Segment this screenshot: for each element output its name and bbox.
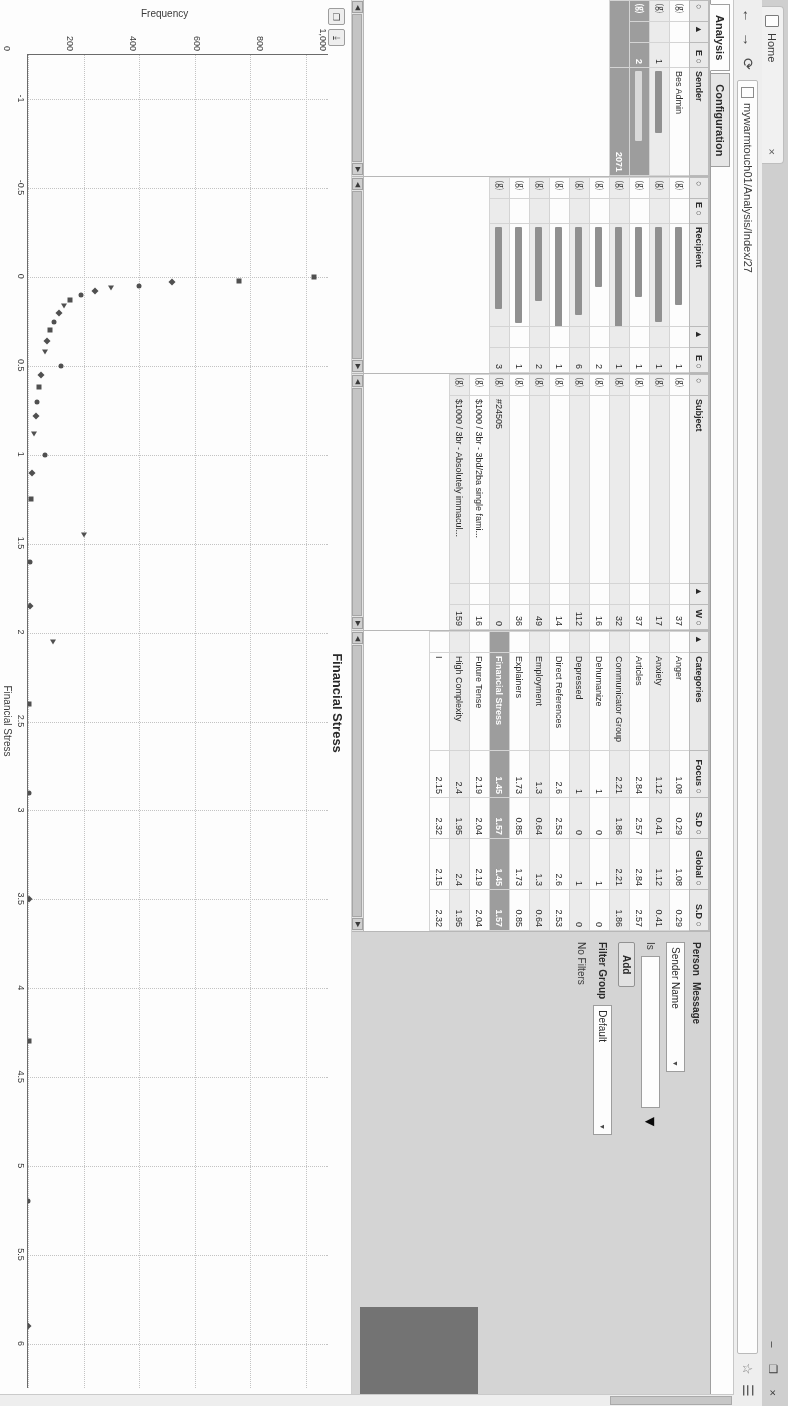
add-filter-button[interactable]: Add (618, 942, 635, 987)
minimize-button[interactable]: – (766, 1341, 779, 1347)
table-row[interactable]: Communicator Group2.211.862.211.86 (610, 632, 630, 931)
row-check[interactable]: ⒢ (570, 178, 590, 199)
table-row[interactable]: Anxiety1.120.411.120.41 (650, 632, 670, 931)
categories-col-sort[interactable]: ▲ (690, 632, 709, 653)
data-point[interactable] (61, 303, 67, 308)
row-check[interactable]: ⒢ (550, 178, 570, 199)
forward-icon[interactable]: → (740, 32, 756, 47)
data-point[interactable] (32, 412, 39, 419)
table-row[interactable]: ⒢1 (630, 178, 650, 373)
data-point[interactable] (137, 284, 142, 289)
row-check[interactable]: ⒢ (490, 375, 510, 396)
table-row[interactable]: ⒢112 (570, 375, 590, 630)
table-row-selected[interactable]: Financial Stress1.451.571.451.57 (490, 632, 510, 931)
scroll-thumb[interactable] (610, 1396, 732, 1405)
table-row[interactable]: Depressed1010 (570, 632, 590, 931)
bookmark-star-icon[interactable]: ☆ (741, 1363, 756, 1375)
table-row[interactable]: High Complexity2.41.952.41.95 (450, 632, 470, 931)
row-check[interactable]: ⒢ (570, 375, 590, 396)
data-point[interactable] (237, 278, 242, 283)
row-check[interactable]: ⒢ (630, 375, 650, 396)
recipient-hscrollbar[interactable]: ◀ ▶ (352, 177, 364, 373)
data-point[interactable] (312, 275, 317, 280)
sender-hscrollbar[interactable]: ◀ ▶ (352, 0, 364, 176)
row-check[interactable]: ⒢ (530, 178, 550, 199)
row-check[interactable]: ⒢ (610, 178, 630, 199)
filter-field-select[interactable]: Sender Name ▼ (666, 942, 685, 1072)
data-point[interactable] (27, 896, 32, 903)
row-check[interactable]: ⒢ (650, 178, 670, 199)
table-row[interactable]: ⒢$1000 / 3br - Absolutely immacul...159 (450, 375, 470, 630)
scroll-left-icon[interactable]: ◀ (352, 375, 363, 387)
data-point[interactable] (29, 497, 34, 502)
scroll-thumb[interactable] (353, 191, 363, 359)
categories-col-sd-focus[interactable]: S.D ○ (690, 798, 709, 839)
recipient-grid-scroll[interactable]: ○ E ○ Recipient ▲ E ○ ⒢1⒢1⒢1⒢1⒢2⒢6⒢1⒢2⒢1… (364, 177, 710, 373)
data-point[interactable] (37, 385, 42, 390)
maximize-button[interactable]: ❐ (766, 1364, 779, 1374)
scroll-left-icon[interactable]: ◀ (352, 632, 363, 644)
table-row[interactable]: ⒢1 (610, 178, 630, 373)
table-row[interactable]: ⒢1 (670, 178, 690, 373)
categories-col-global[interactable]: Global ○ (690, 839, 709, 890)
data-point[interactable] (91, 288, 98, 295)
table-row[interactable]: ⒢1 (510, 178, 530, 373)
scroll-right-icon[interactable]: ▶ (352, 360, 363, 372)
filter-value-input[interactable] (641, 956, 660, 1108)
scroll-right-icon[interactable]: ▶ (352, 163, 363, 175)
filter-tab-person[interactable]: Person (691, 942, 702, 976)
filter-tab-message[interactable]: Message (691, 982, 702, 1024)
tab-analysis[interactable]: Analysis (710, 4, 730, 71)
data-point[interactable] (31, 431, 37, 436)
row-check[interactable]: ⒢ (450, 375, 470, 396)
data-point[interactable] (67, 298, 72, 303)
table-row[interactable]: ⒢2 (590, 178, 610, 373)
row-check[interactable]: ⒢ (590, 178, 610, 199)
table-row[interactable]: ⒢ Bes Admin (670, 1, 690, 176)
tab-configuration[interactable]: Configuration (711, 73, 730, 167)
table-row[interactable]: ⒢37 (630, 375, 650, 630)
data-point[interactable] (50, 639, 56, 644)
filter-group-select[interactable]: Default ▼ (593, 1005, 612, 1135)
categories-col-sd-global[interactable]: S.D ○ (690, 890, 709, 931)
row-check[interactable]: ⒢ (510, 178, 530, 199)
categories-hscrollbar[interactable]: ◀ ▶ (352, 631, 364, 931)
table-row[interactable]: ⒢2 (530, 178, 550, 373)
data-point[interactable] (78, 292, 83, 297)
table-row[interactable]: ⒢36 (510, 375, 530, 630)
table-row[interactable]: ⒢ 1 (650, 1, 670, 176)
data-point[interactable] (81, 532, 87, 537)
table-row[interactable]: ⒢14 (550, 375, 570, 630)
row-check[interactable]: ⒢ (650, 1, 670, 22)
table-row[interactable]: Articles2.842.572.842.57 (630, 632, 650, 931)
table-row[interactable]: ⒢#245050 (490, 375, 510, 630)
chevron-down-icon[interactable]: ▼ (642, 1114, 660, 1130)
table-row[interactable]: ⒢16 (590, 375, 610, 630)
copy-icon[interactable]: ❐ (328, 8, 345, 25)
window-close-button[interactable]: × (766, 1390, 779, 1396)
table-row[interactable]: Future Tense2.192.042.192.04 (470, 632, 490, 931)
recipient-col-count[interactable]: E ○ (690, 348, 709, 373)
table-row[interactable]: I2.152.322.152.32 (430, 632, 450, 931)
row-check[interactable]: ⒢ (670, 1, 690, 22)
scroll-thumb[interactable] (353, 645, 363, 917)
data-point[interactable] (29, 469, 36, 476)
data-point[interactable] (27, 1039, 31, 1044)
row-check[interactable]: ⒢ (650, 375, 670, 396)
table-row[interactable]: ⒢32 (610, 375, 630, 630)
data-point[interactable] (108, 285, 114, 290)
scatter-plot[interactable] (27, 54, 328, 1388)
data-point[interactable] (28, 559, 33, 564)
subject-col-check[interactable]: ○ (690, 375, 709, 396)
subject-col-sort[interactable]: ▲ (690, 584, 709, 605)
row-check[interactable]: ⒢ (670, 178, 690, 199)
data-point[interactable] (38, 371, 45, 378)
data-point[interactable] (27, 790, 31, 795)
back-icon[interactable]: ← (740, 8, 756, 23)
row-check[interactable]: ⒢ (630, 178, 650, 199)
data-point[interactable] (27, 701, 32, 706)
data-point[interactable] (44, 338, 51, 345)
sender-col-sort[interactable]: ▲ (690, 22, 709, 43)
table-row[interactable]: Anger1.080.291.080.29 (670, 632, 690, 931)
recipient-col-check[interactable]: ○ (690, 178, 709, 199)
